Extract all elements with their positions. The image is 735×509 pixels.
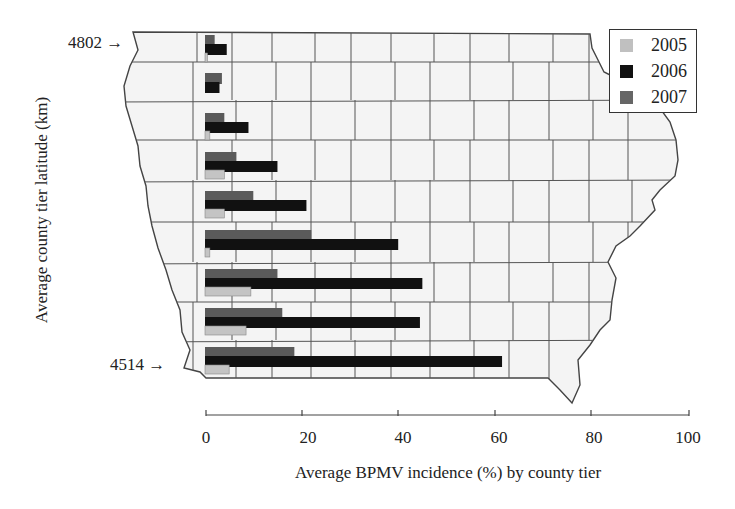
bar-2005	[205, 326, 246, 335]
bar-2006	[205, 356, 502, 367]
bar-2005	[205, 248, 210, 257]
swatch-icon	[620, 65, 633, 78]
x-tick-label: 100	[675, 428, 701, 448]
bar-2005	[205, 170, 224, 179]
bar-2006	[205, 239, 398, 250]
bar-2006	[205, 82, 219, 93]
bar-2006	[205, 122, 248, 133]
x-tick-label: 40	[395, 428, 412, 448]
arrow-right-icon: →	[106, 33, 123, 52]
x-axis-title: Average BPMV incidence (%) by county tie…	[295, 463, 601, 483]
legend: 2005 2006 2007	[609, 29, 697, 113]
legend-item-2005: 2005	[620, 35, 687, 56]
bar-2005	[205, 209, 224, 218]
x-tick-label: 80	[586, 428, 603, 448]
bar-2005	[205, 131, 210, 140]
y-label-top: 4802 →	[68, 33, 123, 53]
bar-2005	[205, 53, 207, 62]
swatch-icon	[620, 39, 633, 52]
swatch-icon	[620, 91, 633, 104]
x-tick-label: 60	[491, 428, 508, 448]
y-label-bottom: 4514 →	[110, 355, 165, 375]
x-tick-label: 0	[202, 428, 211, 448]
x-tick-label: 20	[300, 428, 317, 448]
chart-figure: Average county tier latitude (km) 4802 →…	[0, 0, 735, 509]
bar-2005	[205, 365, 229, 374]
bar-2006	[205, 44, 227, 55]
arrow-right-icon: →	[148, 355, 165, 374]
bar-2005	[205, 287, 251, 296]
legend-item-2006: 2006	[620, 61, 687, 82]
legend-item-2007: 2007	[620, 87, 687, 108]
